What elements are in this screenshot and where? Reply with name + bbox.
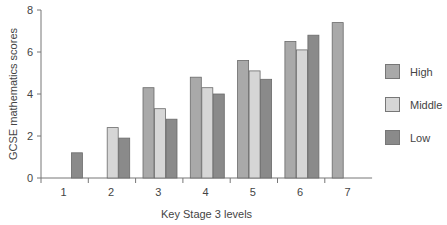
- bar-low: [261, 79, 272, 178]
- legend-item-high: High: [385, 55, 442, 88]
- bar-low: [213, 94, 224, 178]
- y-tick-label: 6: [27, 46, 33, 58]
- legend-swatch-high: [385, 64, 400, 79]
- bar-low: [166, 119, 177, 178]
- legend-label-middle: Middle: [410, 99, 442, 111]
- x-tick-label: 3: [155, 186, 161, 198]
- bar-middle: [249, 71, 260, 178]
- y-tick-label: 2: [27, 130, 33, 142]
- bar-high: [143, 88, 154, 178]
- y-axis-title: GCSE mathematics scores: [7, 27, 19, 160]
- bar-middle: [107, 128, 118, 178]
- x-tick-label: 4: [202, 186, 208, 198]
- x-tick-label: 7: [344, 186, 350, 198]
- bar-middle: [296, 50, 307, 178]
- bar-low: [71, 153, 82, 178]
- x-tick-label: 2: [108, 186, 114, 198]
- y-tick-label: 4: [27, 88, 33, 100]
- legend: High Middle Low: [385, 55, 442, 154]
- legend-item-middle: Middle: [385, 88, 442, 121]
- x-tick-label: 6: [297, 186, 303, 198]
- bar-middle: [202, 88, 213, 178]
- legend-swatch-middle: [385, 97, 400, 112]
- legend-label-low: Low: [410, 132, 430, 144]
- bar-chart: 024681234567Key Stage 3 levelsGCSE mathe…: [0, 0, 447, 225]
- bars: [71, 23, 343, 178]
- bar-high: [190, 77, 201, 178]
- y-tick-label: 0: [27, 172, 33, 184]
- legend-swatch-low: [385, 130, 400, 145]
- bar-low: [308, 35, 319, 178]
- bar-middle: [155, 109, 166, 178]
- x-axis-title: Key Stage 3 levels: [161, 208, 253, 220]
- x-tick-label: 5: [250, 186, 256, 198]
- bar-high: [332, 23, 343, 178]
- legend-label-high: High: [410, 66, 433, 78]
- legend-item-low: Low: [385, 121, 442, 154]
- bar-high: [285, 42, 296, 179]
- x-tick-label: 1: [61, 186, 67, 198]
- y-tick-label: 8: [27, 4, 33, 16]
- bar-low: [119, 138, 130, 178]
- bar-high: [238, 60, 249, 178]
